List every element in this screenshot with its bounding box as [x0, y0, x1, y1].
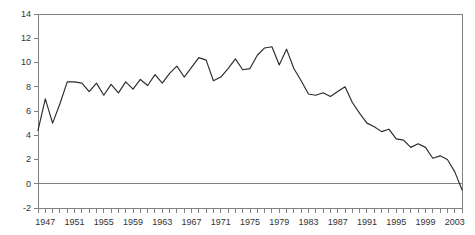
line-chart: 14121086420-2 19471951195519591963196719…	[0, 0, 475, 235]
y-tick-label: 14	[21, 9, 31, 19]
x-axis-tick-labels: 1947195119551959196319671971197519791983…	[35, 217, 464, 227]
x-tick-label: 1959	[123, 217, 143, 227]
x-tick-label: 1951	[65, 217, 85, 227]
x-tick-label: 1979	[269, 217, 289, 227]
y-tick-label: 2	[26, 154, 31, 164]
y-tick-label: 8	[26, 82, 31, 92]
x-tick-label: 1963	[152, 217, 172, 227]
x-tick-label: 1987	[328, 217, 348, 227]
y-tick-label: 10	[21, 57, 31, 67]
chart-background	[0, 0, 475, 235]
x-tick-label: 1975	[240, 217, 260, 227]
x-tick-label: 1995	[386, 217, 406, 227]
x-tick-label: 1983	[298, 217, 318, 227]
y-tick-label: -2	[23, 203, 31, 213]
chart-container: 14121086420-2 19471951195519591963196719…	[0, 0, 475, 235]
x-tick-label: 2003	[445, 217, 465, 227]
y-tick-label: 4	[26, 130, 31, 140]
x-tick-label: 1971	[211, 217, 231, 227]
x-tick-label: 1947	[35, 217, 55, 227]
y-tick-label: 6	[26, 106, 31, 116]
y-tick-label: 0	[26, 179, 31, 189]
x-tick-label: 1967	[182, 217, 202, 227]
x-tick-label: 1999	[415, 217, 435, 227]
x-tick-label: 1991	[357, 217, 377, 227]
x-tick-label: 1955	[94, 217, 114, 227]
y-tick-label: 12	[21, 33, 31, 43]
